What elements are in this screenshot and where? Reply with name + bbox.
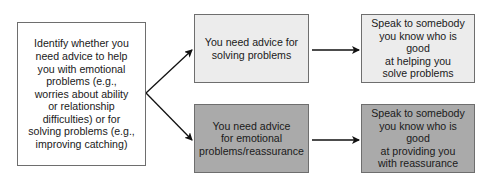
node-text-line: for emotional <box>199 132 304 145</box>
node-text-line: you with emotional <box>28 63 135 76</box>
node-text-line: Speak to somebody <box>366 17 470 30</box>
arrow-start-to-solving <box>146 50 192 93</box>
flowchart: Identify whether you need advice to help… <box>0 0 489 179</box>
node-text-line: at helping you <box>366 55 470 68</box>
node-text-line: improving catching) <box>28 138 135 151</box>
node-text-line: problems (e.g., <box>28 75 135 88</box>
node-text-line: need advice to help <box>28 50 135 63</box>
node-text-line: Speak to somebody <box>366 107 470 120</box>
node-advice-solving-problems: You need advice for solving problems <box>194 14 309 83</box>
node-advice-emotional-problems: You need advice for emotional problems/r… <box>194 104 309 173</box>
node-text-line: with reassurance <box>366 157 470 170</box>
node-speak-helping-solve: Speak to somebody you know who is good a… <box>361 14 475 83</box>
node-text-line: Identify whether you <box>28 37 135 50</box>
node-text-line: solve problems <box>366 67 470 80</box>
node-speak-reassurance: Speak to somebody you know who is good a… <box>361 104 475 173</box>
node-text-line: or relationship <box>28 100 135 113</box>
node-text-line: You need advice <box>199 120 304 133</box>
node-text-line: difficulties) or for <box>28 113 135 126</box>
node-text-line: you know who is good <box>366 30 470 55</box>
node-text-line: solving problems (e.g., <box>28 125 135 138</box>
node-text-line: worries about ability <box>28 88 135 101</box>
node-text-line: You need advice for <box>205 36 298 49</box>
node-text-line: at providing you <box>366 145 470 158</box>
node-text-line: problems/reassurance <box>199 145 304 158</box>
node-text-line: you know who is good <box>366 120 470 145</box>
start-node-identify-need: Identify whether you need advice to help… <box>17 22 146 166</box>
node-text-line: solving problems <box>205 49 298 62</box>
arrow-start-to-emotional <box>146 93 192 140</box>
